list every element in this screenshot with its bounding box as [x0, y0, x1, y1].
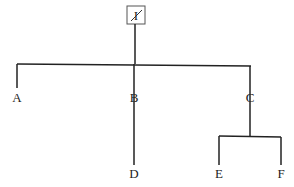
tree-diagram: I A B D C E F — [0, 0, 294, 187]
edge-C-horizontal — [219, 136, 281, 137]
node-C: C — [246, 90, 255, 105]
node-A: A — [12, 90, 22, 105]
node-E: E — [215, 166, 223, 181]
node-F: F — [277, 166, 284, 181]
node-B: B — [130, 90, 139, 105]
node-D: D — [129, 166, 138, 181]
